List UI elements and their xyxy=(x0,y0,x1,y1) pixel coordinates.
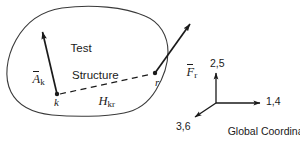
figure-canvas: Test Structure Ak Hkr Fr k r 2,5 1,4 3,6… xyxy=(0,0,300,145)
transfer-path-symbol: H xyxy=(99,94,108,108)
node-label-k: k xyxy=(54,96,59,109)
force-vector-subscript: r xyxy=(194,70,197,80)
overbar-rule xyxy=(33,71,40,72)
transfer-path-subscript: kr xyxy=(108,99,116,109)
global-coordinate-caption-line1: Global Coordinate xyxy=(228,125,300,137)
global-coordinate-caption: Global Coordinate Directions xyxy=(216,113,300,145)
axis-label-3-6: 3,6 xyxy=(176,120,191,132)
test-structure-label-line1: Test xyxy=(71,42,92,54)
force-vector-symbol: F xyxy=(187,65,195,79)
response-vector-overbar-group: A xyxy=(33,72,41,87)
axis-label-2-5: 2,5 xyxy=(210,57,225,69)
transfer-path-label: Hkr xyxy=(86,79,115,124)
node-label-r: r xyxy=(155,76,159,89)
axis-label-1-4: 1,4 xyxy=(266,95,281,107)
response-vector-subscript: k xyxy=(40,77,45,87)
force-vector-overbar-group: F xyxy=(187,65,195,80)
response-vector-label: Ak xyxy=(20,57,45,102)
response-vector-symbol: A xyxy=(33,72,41,86)
node-point-r xyxy=(153,71,157,75)
overbar-rule xyxy=(187,64,194,65)
axis-oblique-line xyxy=(195,103,216,117)
force-vector-label: Fr xyxy=(174,50,197,95)
